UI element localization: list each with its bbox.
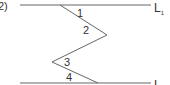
line-l1-label: L1 <box>154 1 165 16</box>
parallel-lines-diagram: 2) L1 L2 1 2 3 4 <box>0 0 170 85</box>
angle-4-label: 4 <box>66 71 72 83</box>
line-l2-label: L2 <box>154 78 165 85</box>
angle-3-label: 3 <box>64 56 70 68</box>
item-label: 2) <box>0 0 8 12</box>
angle-1-label: 1 <box>77 7 83 19</box>
angle-2-label: 2 <box>83 24 89 36</box>
